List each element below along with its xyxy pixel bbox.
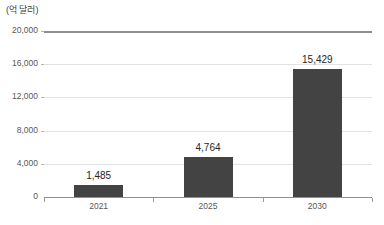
y-axis-tick-label: 4,000 xyxy=(0,158,38,168)
bar-2030[interactable] xyxy=(293,69,342,197)
y-axis-tick-label: 0 xyxy=(0,191,38,201)
x-axis-category-label-2030: 2030 xyxy=(277,201,357,211)
bar-chart: (억 달러) 04,0008,00012,00016,00020,0001,48… xyxy=(0,0,384,225)
x-axis-tick xyxy=(153,198,154,202)
y-axis-tick-mark xyxy=(41,97,44,98)
x-axis-tick xyxy=(44,198,45,202)
gridline-20000 xyxy=(44,31,372,33)
bar-value-label-2030: 15,429 xyxy=(277,54,357,65)
y-axis-tick-mark xyxy=(41,164,44,165)
x-axis-category-label-2025: 2025 xyxy=(168,201,248,211)
y-axis-tick-label: 8,000 xyxy=(0,125,38,135)
x-axis-category-label-2021: 2021 xyxy=(59,201,139,211)
y-axis-tick-label: 16,000 xyxy=(0,58,38,68)
bar-value-label-2021: 1,485 xyxy=(59,170,139,181)
y-axis-tick-mark xyxy=(41,64,44,65)
x-axis-tick xyxy=(263,198,264,202)
bar-value-label-2025: 4,764 xyxy=(168,142,248,153)
y-axis-tick-mark xyxy=(41,31,44,32)
x-axis-line xyxy=(44,197,372,198)
bar-2025[interactable] xyxy=(184,157,233,197)
y-axis-unit-label: (억 달러) xyxy=(6,3,39,16)
bar-2021[interactable] xyxy=(74,185,123,197)
y-axis-tick-label: 20,000 xyxy=(0,25,38,35)
x-axis-tick xyxy=(372,198,373,202)
y-axis-tick-label: 12,000 xyxy=(0,91,38,101)
y-axis-tick-mark xyxy=(41,131,44,132)
